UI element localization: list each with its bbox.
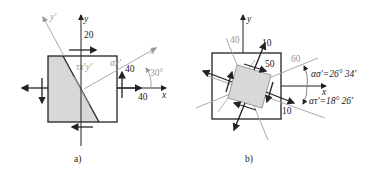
alpha-tau-label: ατ′=18° 26′: [309, 96, 354, 106]
alpha-tau-arc: [303, 86, 307, 104]
right-normal-label: 40: [138, 92, 148, 102]
right-shear-label: 40: [125, 64, 135, 74]
y-axis-label: y: [83, 14, 89, 24]
caption-a: a): [74, 154, 81, 165]
x-prime-axis: [84, 48, 156, 89]
figure-b: y x 40 60 10 10 50 ασ′=26° 34′ ατ′=18° 2…: [196, 14, 357, 165]
y-axis-label-b: y: [246, 14, 252, 24]
figure-a: y′ x′ τx′y′ σx′ y 20 x 40 40 30° a): [22, 12, 167, 165]
label-10-top: 10: [262, 38, 272, 48]
stress-top-label: 20: [84, 30, 94, 40]
arrow-bottom-normal: [234, 103, 245, 130]
tau-label: τx′y′: [76, 62, 93, 72]
angle-label: 30°: [150, 68, 164, 78]
alpha-sigma-arc: [304, 66, 307, 86]
label-10-bottom: 10: [282, 106, 292, 116]
x-prime-label: x′: [149, 46, 157, 56]
caption-b: b): [245, 154, 253, 165]
label-40: 40: [230, 35, 240, 45]
arrow-left-normal: [203, 71, 232, 82]
x-axis-label: x: [161, 90, 167, 100]
label-60: 60: [291, 54, 301, 64]
stress-diagram: y′ x′ τx′y′ σx′ y 20 x 40 40 30° a): [0, 0, 382, 174]
sigma-label: σx′: [110, 58, 122, 68]
y-prime-axis: [43, 17, 64, 56]
alpha-sigma-label: ασ′=26° 34′: [311, 69, 357, 79]
rotated-element: [228, 65, 271, 108]
label-50: 50: [265, 59, 275, 69]
y-prime-label: y′: [49, 12, 57, 22]
